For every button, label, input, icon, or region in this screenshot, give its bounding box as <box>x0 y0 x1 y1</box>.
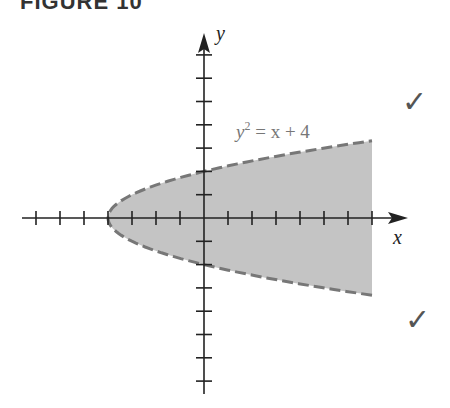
checkmark-icon: ✓ <box>405 302 430 337</box>
checkmark-icon: ✓ <box>402 84 427 119</box>
equation-annotation: y2 = x + 4 <box>234 119 310 142</box>
y-axis-label: y <box>214 22 225 45</box>
x-axis-label: x <box>392 226 402 248</box>
chart: y x y2 = x + 4 ✓ ✓ <box>0 0 450 408</box>
